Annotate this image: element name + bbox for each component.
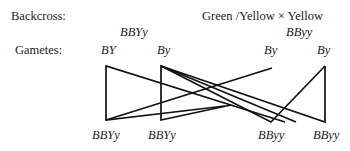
offspring-3: BByy — [258, 129, 284, 142]
offspring-4: BByy — [313, 129, 339, 142]
line-offspring-2 — [161, 66, 296, 122]
offspring-2: BBYy — [148, 129, 176, 142]
line-offspring-1 — [106, 66, 285, 122]
line-gamete-4 — [161, 66, 325, 122]
offspring-1: BBYy — [92, 129, 120, 142]
